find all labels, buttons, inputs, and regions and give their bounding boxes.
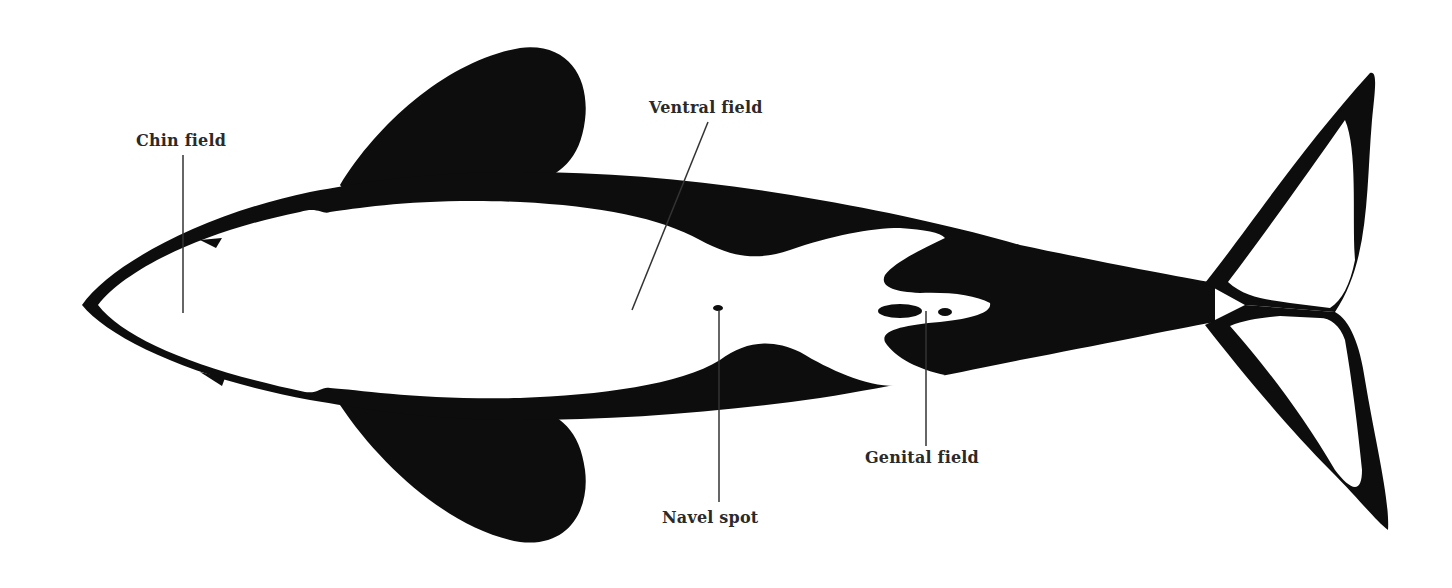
- navel-spot-label: Navel spot: [662, 508, 758, 527]
- tail-fluke-lower-white: [1230, 316, 1362, 487]
- navel-spot-mark: [713, 305, 723, 311]
- whale-illustration: [0, 0, 1452, 588]
- genital-slit: [878, 304, 922, 318]
- genital-field-label: Genital field: [865, 448, 979, 467]
- chin-field-label: Chin field: [136, 131, 226, 150]
- killer-whale-ventral-diagram: Chin field Ventral field Navel spot Geni…: [0, 0, 1452, 588]
- tail-fluke-upper-white: [1228, 120, 1355, 308]
- ventral-field-label: Ventral field: [649, 98, 763, 117]
- anal-slit: [938, 308, 952, 316]
